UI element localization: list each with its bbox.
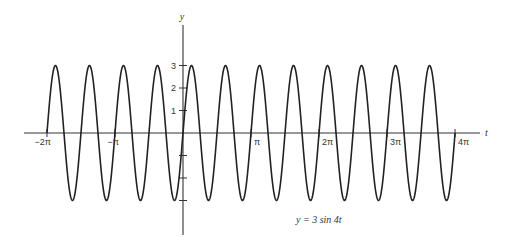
x-tick-label: −2π (34, 137, 50, 147)
x-axis-label: t (485, 127, 488, 138)
sine-graph-figure: −2π−ππ2π3π4π321yt y = 3 sin 4t (0, 0, 511, 251)
y-tick-label: 3 (171, 61, 176, 71)
x-tick-label: 2π (322, 137, 333, 147)
x-tick-label: 3π (390, 137, 401, 147)
x-tick-label: −π (108, 137, 119, 147)
x-tick-label: 4π (458, 137, 469, 147)
y-tick-label: 2 (171, 83, 176, 93)
y-tick-label: 1 (171, 106, 176, 116)
axis-labels: −2π−ππ2π3π4π321yt (34, 11, 488, 147)
x-tick-label: π (254, 137, 260, 147)
plot-area: −2π−ππ2π3π4π321yt y = 3 sin 4t (0, 0, 511, 251)
y-axis-label: y (179, 11, 185, 22)
equation-label: y = 3 sin 4t (295, 214, 342, 225)
